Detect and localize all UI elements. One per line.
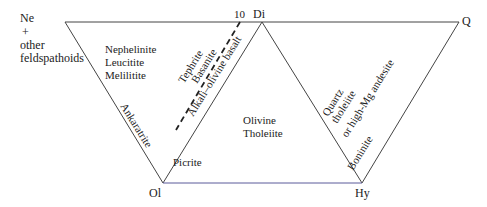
- vertex-ne-line2: +: [22, 25, 29, 39]
- basalt-classification-diagram: Ne + other feldspathoids 10 Di Q Ol Hy N…: [0, 0, 487, 207]
- vertex-hy: Hy: [355, 186, 370, 200]
- label-nephelinite: Nephelinite: [105, 43, 156, 55]
- label-tholeiite: Tholeiite: [243, 127, 283, 139]
- label-leucitite: Leucitite: [105, 56, 144, 68]
- vertex-ol: Ol: [149, 186, 162, 200]
- vertex-q: Q: [462, 14, 471, 28]
- tick-10-label: 10: [234, 8, 246, 20]
- label-melilitite: Melilitite: [105, 69, 146, 81]
- label-ankaratrite: Ankaratrite: [118, 101, 155, 150]
- hy-q-edge: [362, 22, 459, 183]
- label-picrite: Picrite: [173, 156, 202, 168]
- vertex-labels: Ne + other feldspathoids 10 Di Q Ol Hy: [20, 7, 471, 200]
- vertex-ne-line1: Ne: [20, 11, 34, 25]
- label-boninite: Boninite: [345, 133, 375, 172]
- label-olivine: Olivine: [243, 114, 276, 126]
- vertex-di: Di: [253, 7, 266, 21]
- vertex-ne-line4: feldspathoids: [20, 51, 84, 65]
- field-labels: Nephelinite Leucitite Melilitite Ankarat…: [105, 34, 396, 172]
- vertex-ne-line3: other: [20, 38, 45, 52]
